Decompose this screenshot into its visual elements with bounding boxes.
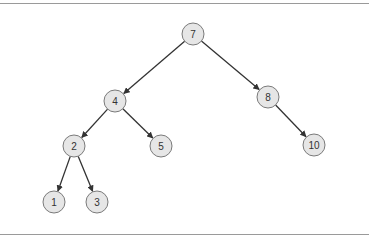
tree-node-1: 1 [43, 191, 65, 213]
edge-2-to-1 [58, 156, 70, 191]
tree-node-5: 5 [150, 135, 172, 157]
node-label: 8 [265, 92, 271, 103]
tree-node-2: 2 [63, 135, 85, 157]
tree-node-8: 8 [257, 86, 279, 108]
node-label: 1 [51, 197, 57, 208]
node-label: 5 [158, 141, 164, 152]
tree-node-7: 7 [182, 23, 204, 45]
nodes-group: 748251013 [43, 23, 325, 213]
tree-diagram: 748251013 [0, 0, 369, 239]
tree-node-3: 3 [86, 191, 108, 213]
node-label: 7 [190, 29, 196, 40]
edge-7-to-8 [201, 41, 259, 90]
edge-7-to-4 [124, 41, 185, 93]
edge-4-to-2 [82, 109, 108, 137]
edge-8-to-10 [276, 105, 306, 137]
node-label: 3 [94, 197, 100, 208]
node-label: 10 [308, 140, 320, 151]
edge-4-to-5 [123, 109, 153, 138]
tree-node-10: 10 [303, 134, 325, 156]
node-label: 4 [112, 96, 118, 107]
tree-node-4: 4 [104, 90, 126, 112]
edges-group [58, 41, 306, 191]
node-label: 2 [71, 141, 77, 152]
edge-2-to-3 [78, 156, 92, 191]
